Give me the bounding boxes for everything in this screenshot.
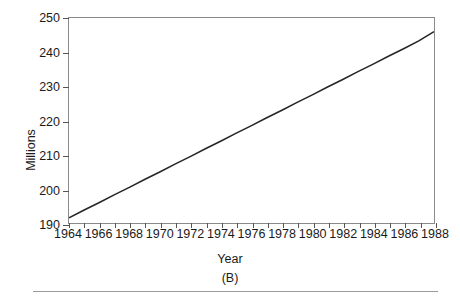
data-line-chart — [69, 18, 434, 223]
x-axis-tick-label: 1968 — [115, 228, 143, 241]
y-axis-tick-label: 220 — [39, 115, 60, 128]
y-axis-tick-label: 230 — [39, 81, 60, 94]
figure-caption: (B) — [0, 271, 460, 285]
x-axis-tick-label: 1964 — [54, 228, 82, 241]
x-axis-tick-label: 1982 — [329, 228, 357, 241]
y-axis-tick-label: 200 — [39, 184, 60, 197]
x-axis-tick-label: 1980 — [299, 228, 327, 241]
x-axis-tick-label: 1972 — [176, 228, 204, 241]
figure-panel-b: Millions 190200210220230240250 196419661… — [0, 0, 460, 300]
x-axis-tick-label: 1978 — [268, 228, 296, 241]
y-axis-tick-mark — [63, 18, 69, 19]
y-axis-tick-mark — [63, 156, 69, 157]
y-axis-tick-mark — [63, 191, 69, 192]
x-axis-title: Year — [0, 252, 460, 266]
x-axis-tick-label: 1986 — [391, 228, 419, 241]
y-axis-tick-mark — [63, 53, 69, 54]
y-axis-tick-label: 210 — [39, 150, 60, 163]
x-axis-tick-label: 1966 — [85, 228, 113, 241]
y-axis-tick-mark — [63, 122, 69, 123]
y-axis-tick-label: 250 — [39, 12, 60, 25]
plot-area: 190200210220230240250 — [68, 17, 435, 224]
x-axis-tick-label: 1976 — [238, 228, 266, 241]
x-axis-tick-label: 1984 — [360, 228, 388, 241]
x-axis-tick-label: 1988 — [421, 228, 449, 241]
data-series-line — [69, 32, 434, 218]
y-axis-tick-mark — [63, 87, 69, 88]
x-axis-tick-label: 1970 — [146, 228, 174, 241]
y-axis-title: Millions — [24, 129, 38, 171]
y-axis-tick-label: 240 — [39, 46, 60, 59]
bottom-divider — [33, 291, 438, 292]
x-axis-tick-label: 1974 — [207, 228, 235, 241]
